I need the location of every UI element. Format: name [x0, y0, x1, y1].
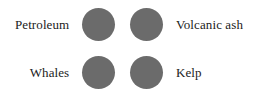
legend-row-bottom: Whales Kelp — [0, 48, 256, 96]
legend-label-volcanic-ash: Volcanic ash — [170, 18, 256, 31]
circle-marker-icon — [82, 8, 115, 41]
legend-label-whales: Whales — [0, 66, 74, 79]
legend-marker-cell-whales — [74, 56, 122, 89]
legend-row-top: Petroleum Volcanic ash — [0, 0, 256, 48]
legend-marker-cell-kelp — [122, 56, 170, 89]
legend-label-petroleum: Petroleum — [0, 18, 74, 31]
legend-label-kelp: Kelp — [170, 66, 256, 79]
circle-marker-icon — [82, 56, 115, 89]
legend-figure: Petroleum Volcanic ash Whales Kelp — [0, 0, 256, 96]
legend-marker-cell-petroleum — [74, 8, 122, 41]
legend-marker-cell-volcanic-ash — [122, 8, 170, 41]
circle-marker-icon — [130, 8, 163, 41]
circle-marker-icon — [130, 56, 163, 89]
